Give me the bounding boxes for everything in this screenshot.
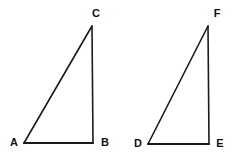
vertex-label-d: D [134, 138, 142, 149]
figure-background [0, 0, 243, 155]
geometry-figure [0, 0, 243, 155]
vertex-label-a: A [10, 137, 18, 148]
vertex-label-e: E [216, 138, 223, 149]
vertex-label-f: F [214, 8, 221, 19]
vertex-label-b: B [101, 137, 109, 148]
edge-BC [92, 26, 93, 143]
edge-EF [208, 26, 209, 144]
vertex-label-c: C [92, 8, 100, 19]
